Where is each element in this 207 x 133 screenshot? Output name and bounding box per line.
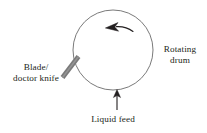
liquid-feed-arrow [113, 90, 120, 111]
diagram-canvas: Blade/ doctor knife Rotating drum Liquid… [0, 0, 207, 133]
rotating-drum-label-line2: drum [156, 55, 204, 66]
rotation-direction-arrow [105, 23, 133, 32]
blade-label: Blade/ doctor knife [4, 62, 68, 84]
rotating-drum-label: Rotating drum [156, 44, 204, 66]
blade-label-line2: doctor knife [4, 73, 68, 84]
liquid-feed-label-line1: Liquid feed [78, 114, 148, 125]
blade-label-line1: Blade/ [4, 62, 68, 73]
rotating-drum-circle [73, 10, 153, 90]
liquid-feed-label: Liquid feed [78, 114, 148, 125]
rotating-drum-label-line1: Rotating [156, 44, 204, 55]
